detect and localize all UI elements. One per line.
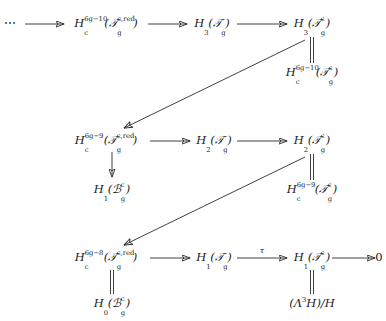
sub-r3-c3: 1 (304, 264, 308, 271)
arg-r3-c3: (𝒯 (308, 250, 321, 264)
close-r3-c2: ) (227, 250, 232, 264)
argsup-r1-c3-below: c (329, 65, 333, 72)
node-row3-col1-below: H0(ℬcg) (94, 298, 131, 310)
argsub-r3-c3: g (321, 264, 325, 271)
argsub-r2-c3: g (321, 147, 325, 154)
node-row1-col1: H6g−10c(𝒯c,redg) (74, 18, 138, 30)
argsup-r2-c1-below: c (121, 182, 125, 189)
node-row1-col3: H3(𝒯cg) (294, 18, 331, 30)
argsub-r1-c1: g (117, 30, 121, 37)
node-row2-col2: H2(𝒯g) (196, 135, 232, 147)
diagonal-arrow-row2-to-row3 (124, 157, 305, 245)
argsup-r3-c1: c,red (117, 250, 135, 257)
argsup-r3-c3: c (321, 250, 325, 257)
close-r1-c2: ) (225, 16, 230, 30)
node-row2-col3: H2(𝒯cg) (294, 135, 331, 147)
sub-r2-c1: c (85, 147, 89, 154)
node-row1-leading-dots: ⋯ (4, 18, 18, 30)
node-row1-col3-below: H6g−10c(𝒯cg) (286, 67, 339, 79)
argsub-r2-c1: g (117, 147, 121, 154)
argsub-r1-c2: g (221, 30, 225, 37)
close-r1-c3-below: ) (334, 65, 339, 79)
arg-r1-c2: (𝒯 (208, 16, 221, 30)
diagram-arrows (0, 0, 386, 321)
lambda-open: (Λ (289, 296, 302, 310)
close-r2-c2: ) (227, 133, 232, 147)
argsup-r2-c3-below: c (328, 182, 332, 189)
argsub-r2-c1-below: g (121, 196, 125, 203)
node-row3-col2: H1(𝒯g) (196, 252, 232, 264)
sub-r1-c2: 3 (204, 30, 208, 37)
arrow-label-tau: τ (260, 246, 264, 255)
argsup-r2-c3: c (321, 133, 325, 140)
sub-r3-c1-below: 0 (104, 310, 108, 317)
sub-r1-c3-below: c (296, 79, 300, 86)
sub-r2-c1-below: 1 (104, 196, 108, 203)
node-row2-col1: H6g−9c(𝒯c,redg) (75, 135, 138, 147)
argsub-r1-c3-below: g (329, 79, 333, 86)
node-row3-col3-below: (Λ3H)/H (289, 298, 335, 310)
arg-r2-c3: (𝒯 (308, 133, 321, 147)
node-row3-zero: 0 (375, 252, 382, 264)
close-r3-c1-below: ) (126, 296, 131, 310)
arg-r2-c1: (𝒯 (104, 133, 117, 147)
close-r3-c3: ) (326, 250, 331, 264)
sub-r1-c3: 3 (304, 30, 308, 37)
sub-r2-c3-below: c (297, 196, 301, 203)
node-row3-col1: H6g−8c(𝒯c,redg) (75, 252, 138, 264)
argsub-r3-c1: g (117, 264, 121, 271)
arg-r3-c1-below: (ℬ (108, 296, 121, 310)
node-row3-col3: H1(𝒯cg) (294, 252, 331, 264)
sub-r1-c1: c (84, 30, 88, 37)
close-r2-c1-below: ) (126, 182, 131, 196)
node-row2-col1-below: H1(ℬcg) (94, 184, 131, 196)
argsub-r3-c1-below: g (121, 310, 125, 317)
diagonal-arrow-row1-to-row2 (124, 40, 305, 128)
argsub-r2-c2: g (223, 147, 227, 154)
argsup-r3-c1-below: c (121, 296, 125, 303)
close-r1-c3: ) (326, 16, 331, 30)
lambda-quotient: H)/H (306, 296, 334, 310)
argsup-r2-c1: c,red (117, 133, 135, 140)
argsup-r1-c3: c (321, 16, 325, 23)
sub-r3-c1: c (85, 264, 89, 271)
sup-r1-c1: 6g−10 (84, 16, 107, 23)
close-r2-c3-below: ) (333, 182, 338, 196)
argsub-r3-c2: g (223, 264, 227, 271)
sup-r2-c3-below: 6g−9 (297, 182, 316, 189)
arg-r2-c3-below: (𝒯 (315, 182, 328, 196)
arg-r3-c2: (𝒯 (210, 250, 223, 264)
sup-r1-c3-below: 6g−10 (296, 65, 319, 72)
sub-r2-c3: 2 (304, 147, 308, 154)
sup-r3-c1: 6g−8 (85, 250, 104, 257)
argsub-r2-c3-below: g (328, 196, 332, 203)
commutative-diagram: ⋯ H6g−10c(𝒯c,redg) H3(𝒯g) H3(𝒯cg) H6g−10… (0, 0, 386, 321)
sub-r3-c2: 1 (206, 264, 210, 271)
sup-r2-c1: 6g−9 (85, 133, 104, 140)
node-row1-col2: H3(𝒯g) (194, 18, 230, 30)
node-row2-col3-below: H6g−9c(𝒯cg) (287, 184, 338, 196)
arg-r1-c3: (𝒯 (308, 16, 321, 30)
arg-r3-c1: (𝒯 (104, 250, 117, 264)
argsub-r1-c3: g (321, 30, 325, 37)
sub-r2-c2: 2 (206, 147, 210, 154)
arg-r2-c1-below: (ℬ (108, 182, 121, 196)
arg-r2-c2: (𝒯 (210, 133, 223, 147)
argsup-r1-c1: c,red (117, 16, 135, 23)
close-r2-c3: ) (326, 133, 331, 147)
